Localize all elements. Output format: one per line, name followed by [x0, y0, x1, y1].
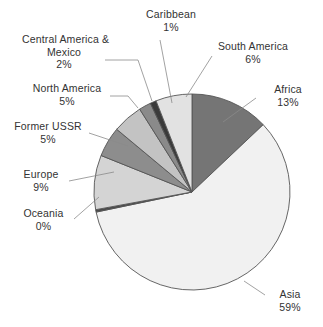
leader-line-north-america — [110, 96, 138, 108]
leader-line-caribbean — [160, 40, 172, 103]
label-central-america-percent: 2% — [22, 58, 106, 71]
pie-chart: Caribbean 1% Central America & Mexico 2%… — [0, 0, 323, 327]
label-europe-name: Europe — [16, 168, 66, 181]
label-central-america-name-line1: Central America & — [22, 33, 106, 46]
label-central-america-mexico: Central America & Mexico 2% — [22, 33, 106, 71]
label-former-ussr-percent: 5% — [10, 133, 86, 146]
label-oceania-percent: 0% — [16, 220, 71, 233]
label-former-ussr: Former USSR 5% — [10, 120, 86, 145]
label-africa: Africa 13% — [262, 83, 314, 108]
label-oceania: Oceania 0% — [16, 207, 71, 232]
label-central-america-name-line2: Mexico — [22, 46, 106, 59]
label-oceania-name: Oceania — [16, 207, 71, 220]
label-north-america-percent: 5% — [27, 95, 107, 108]
leader-line-central-america — [105, 60, 152, 101]
label-north-america: North America 5% — [27, 82, 107, 107]
label-asia-name: Asia — [268, 288, 312, 301]
label-caribbean: Caribbean 1% — [139, 8, 203, 33]
leader-line-asia — [244, 281, 265, 295]
label-south-america-name: South America — [213, 40, 293, 53]
label-europe-percent: 9% — [16, 181, 66, 194]
label-south-america-percent: 6% — [213, 53, 293, 66]
label-caribbean-name: Caribbean — [139, 8, 203, 21]
label-north-america-name: North America — [27, 82, 107, 95]
pie-slices-group — [94, 94, 290, 290]
leader-line-south-america — [186, 56, 212, 97]
label-europe: Europe 9% — [16, 168, 66, 193]
label-africa-percent: 13% — [262, 96, 314, 109]
label-south-america: South America 6% — [213, 40, 293, 65]
label-asia-percent: 59% — [268, 301, 312, 314]
label-asia: Asia 59% — [268, 288, 312, 313]
label-former-ussr-name: Former USSR — [10, 120, 86, 133]
label-africa-name: Africa — [262, 83, 314, 96]
label-caribbean-percent: 1% — [139, 21, 203, 34]
